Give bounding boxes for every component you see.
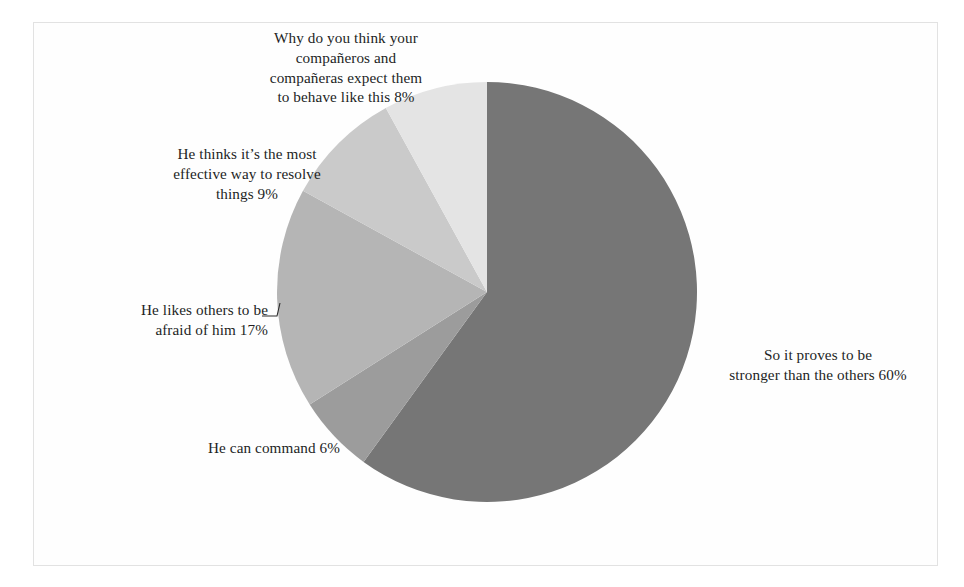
pie-label-effective-way: He thinks it’s the most effective way to…	[128, 144, 366, 203]
pie-label-afraid-of-him: He likes others to be afraid of him 17%	[100, 300, 268, 340]
pie-label-can-command: He can command 6%	[150, 438, 340, 458]
pie-svg	[0, 0, 964, 587]
pie-chart-page: Why do you think your compañeros and com…	[0, 0, 964, 587]
pie-label-stronger-than-others: So it proves to be stronger than the oth…	[704, 345, 932, 385]
pie-label-why-expect: Why do you think your compañeros and com…	[212, 28, 480, 107]
pie-chart-figure: Why do you think your compañeros and com…	[0, 0, 964, 587]
